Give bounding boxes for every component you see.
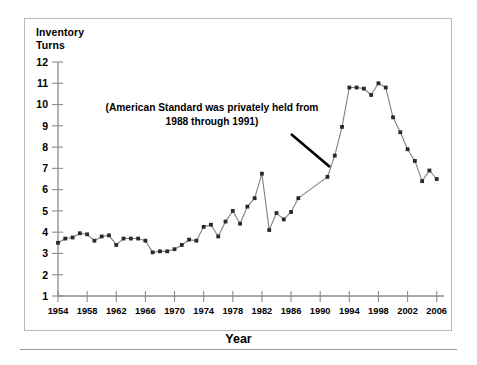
x-tick-label: 2002	[397, 306, 418, 316]
data-point-marker	[71, 236, 75, 240]
y-tick-label: 3	[42, 247, 48, 259]
data-point-marker	[63, 237, 67, 241]
data-point-marker	[340, 125, 344, 129]
annotation-leader-line	[291, 134, 330, 167]
y-tick-label: 2	[42, 269, 48, 281]
data-point-marker	[122, 237, 126, 241]
line-chart-plot: 123456789101112 195419581962196619701974…	[0, 0, 477, 365]
data-point-marker	[413, 159, 417, 163]
data-point-marker	[107, 233, 111, 237]
data-point-marker	[100, 235, 104, 239]
x-tick-label: 1986	[281, 306, 302, 316]
data-point-marker	[347, 86, 351, 90]
data-point-marker	[187, 238, 191, 242]
y-tick-label: 1	[42, 290, 48, 302]
data-point-marker	[253, 196, 257, 200]
data-point-marker	[136, 237, 140, 241]
x-tick-label: 1994	[339, 306, 361, 316]
data-point-marker	[216, 235, 220, 239]
data-point-marker	[333, 154, 337, 158]
figure-root: Inventory Turns (American Standard was p…	[0, 0, 477, 365]
x-tick-label: 1978	[222, 306, 243, 316]
y-tick-label: 6	[42, 183, 48, 195]
data-point-marker	[202, 225, 206, 229]
data-point-marker	[420, 179, 424, 183]
data-point-marker	[406, 147, 410, 151]
y-tick-label: 4	[42, 226, 48, 238]
y-tick-label: 10	[36, 98, 48, 110]
data-point-marker	[428, 169, 432, 173]
y-axis: 123456789101112	[36, 56, 63, 302]
data-point-marker	[93, 239, 97, 243]
data-point-marker	[114, 243, 118, 247]
y-tick-label: 7	[42, 162, 48, 174]
data-point-marker	[384, 86, 388, 90]
data-point-marker	[180, 243, 184, 247]
y-tick-label: 12	[36, 56, 48, 68]
data-point-marker	[158, 249, 162, 253]
data-point-marker	[209, 223, 213, 227]
x-tick-label: 1958	[77, 306, 98, 316]
data-point-marker	[260, 172, 264, 176]
x-tick-label: 1990	[310, 306, 331, 316]
data-point-marker	[398, 130, 402, 134]
x-tick-label: 1982	[252, 306, 273, 316]
x-tick-label: 1962	[106, 306, 127, 316]
x-tick-label: 1970	[164, 306, 185, 316]
data-point-marker	[151, 250, 155, 254]
data-point-marker	[377, 81, 381, 85]
y-tick-label: 9	[42, 120, 48, 132]
x-tick-label: 2006	[426, 306, 447, 316]
data-point-marker	[173, 247, 177, 251]
data-point-marker	[56, 241, 60, 245]
data-point-marker	[231, 209, 235, 213]
data-point-marker	[435, 177, 439, 181]
x-tick-label: 1966	[135, 306, 156, 316]
data-point-marker	[194, 239, 198, 243]
data-point-marker	[289, 210, 293, 214]
data-point-marker	[78, 231, 82, 235]
data-point-marker	[326, 175, 330, 179]
data-point-marker	[296, 196, 300, 200]
data-series-line	[58, 83, 437, 252]
x-tick-label: 1974	[193, 306, 215, 316]
data-point-marker	[85, 232, 89, 236]
y-tick-label: 11	[37, 77, 48, 89]
y-tick-label: 8	[42, 141, 48, 153]
data-point-marker	[238, 222, 242, 226]
data-point-marker	[129, 237, 133, 241]
x-tick-label: 1998	[368, 306, 389, 316]
data-point-marker	[165, 249, 169, 253]
data-point-marker	[245, 205, 249, 209]
data-point-marker	[355, 86, 359, 90]
data-point-marker	[282, 218, 286, 222]
x-axis: 1954195819621966197019741978198219861990…	[48, 291, 447, 316]
x-axis-title: Year	[0, 332, 477, 346]
data-point-marker	[144, 239, 148, 243]
data-point-marker	[275, 211, 279, 215]
x-tick-label: 1954	[48, 306, 70, 316]
data-point-marker	[391, 115, 395, 119]
data-point-markers	[56, 81, 439, 254]
data-point-marker	[224, 220, 228, 224]
data-point-marker	[362, 87, 366, 91]
data-point-marker	[369, 93, 373, 97]
bottom-divider	[20, 349, 457, 350]
y-tick-label: 5	[42, 205, 48, 217]
data-point-marker	[267, 228, 271, 232]
